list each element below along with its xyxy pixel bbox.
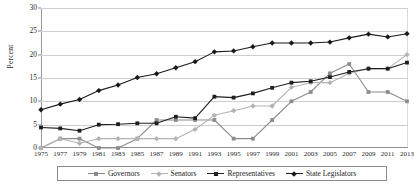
data-point: [270, 118, 274, 122]
data-point: [309, 90, 313, 94]
data-point: [232, 137, 236, 141]
data-point: [212, 118, 216, 122]
plot-area: 051015202530 197519771979198119831985198…: [41, 8, 408, 148]
data-point: [290, 81, 294, 85]
data-point: [154, 71, 159, 76]
data-point: [77, 141, 82, 146]
y-axis-title: Percent: [6, 27, 15, 87]
series-senators: [38, 52, 409, 151]
data-point: [78, 129, 82, 133]
data-point: [328, 75, 332, 79]
x-tick-label: 2001: [284, 151, 298, 158]
y-tick-label: 20: [30, 51, 38, 59]
data-point: [289, 40, 294, 45]
legend-marker-icon: [88, 170, 105, 177]
data-point: [38, 107, 43, 112]
data-point: [232, 96, 236, 100]
data-point: [212, 49, 217, 54]
data-point: [58, 101, 63, 106]
data-point: [250, 103, 255, 108]
data-point: [155, 121, 159, 125]
legend-label: State Legislators: [306, 169, 356, 178]
data-point: [173, 136, 178, 141]
legend-marker-icon: [286, 170, 303, 177]
data-point: [192, 59, 197, 64]
data-point: [96, 88, 101, 93]
data-point: [231, 108, 236, 113]
x-tick-label: 1987: [150, 151, 164, 158]
data-point: [173, 65, 178, 70]
data-point: [97, 123, 101, 127]
x-tick-label: 1985: [130, 151, 144, 158]
data-point: [231, 48, 236, 53]
data-point: [154, 136, 159, 141]
data-point: [174, 118, 178, 122]
data-point: [385, 34, 390, 39]
x-tick-label: 2005: [323, 151, 337, 158]
data-point: [174, 115, 178, 119]
y-tick-label: 10: [30, 98, 38, 106]
x-tick-label: 2011: [381, 151, 395, 158]
data-point: [290, 99, 294, 103]
legend-item-state-legislators[interactable]: State Legislators: [286, 169, 356, 178]
data-point: [367, 67, 371, 71]
y-tick-label: 30: [30, 4, 38, 12]
legend-marker-icon: [151, 170, 168, 177]
legend-item-senators[interactable]: Senators: [151, 169, 197, 178]
y-tick-label: 15: [30, 74, 38, 82]
y-tick-label: 5: [33, 121, 37, 129]
legend-label: Governors: [108, 169, 140, 178]
data-point: [347, 35, 352, 40]
data-point: [58, 127, 62, 131]
data-point: [212, 95, 216, 99]
x-tick-label: 1999: [265, 151, 279, 158]
data-point: [77, 97, 82, 102]
x-tick-label: 1989: [169, 151, 183, 158]
data-point: [96, 136, 101, 141]
data-point: [116, 146, 120, 150]
data-point: [116, 122, 120, 126]
series-representatives: [39, 61, 409, 133]
data-point: [347, 70, 351, 74]
legend-item-governors[interactable]: Governors: [88, 169, 140, 178]
x-tick-label: 1981: [92, 151, 106, 158]
data-point: [404, 31, 409, 36]
data-point: [78, 137, 82, 141]
x-tick-label: 1997: [246, 151, 260, 158]
legend-label: Senators: [171, 169, 197, 178]
data-point: [386, 67, 390, 71]
x-tick-label: 1993: [207, 151, 221, 158]
legend-label: Representatives: [227, 169, 274, 178]
x-tick-label: 1995: [227, 151, 241, 158]
data-point: [327, 80, 332, 85]
legend-item-representatives[interactable]: Representatives: [207, 169, 274, 178]
data-point: [251, 92, 255, 96]
data-point: [270, 86, 274, 90]
x-tick-label: 2007: [342, 151, 356, 158]
data-point: [366, 31, 371, 36]
data-point: [308, 40, 313, 45]
data-point: [135, 121, 139, 125]
data-point: [309, 79, 313, 83]
x-tick-label: 2003: [304, 151, 318, 158]
x-tick-label: 1979: [73, 151, 87, 158]
data-point: [405, 61, 409, 65]
data-point: [155, 118, 159, 122]
legend-marker-icon: [207, 170, 224, 177]
data-point: [97, 146, 101, 150]
x-tick-label: 2013: [400, 151, 414, 158]
data-point: [39, 126, 43, 130]
x-tick-label: 1975: [34, 151, 48, 158]
x-tick-label: 2009: [361, 151, 375, 158]
series-line: [41, 64, 407, 148]
data-point: [115, 136, 120, 141]
x-tick-label: 1991: [188, 151, 202, 158]
series-governors: [39, 62, 409, 150]
data-point: [367, 90, 371, 94]
data-point: [250, 44, 255, 49]
data-point: [328, 71, 332, 75]
data-point: [405, 99, 409, 103]
chart-legend: GovernorsSenatorsRepresentativesState Le…: [57, 166, 387, 181]
data-point: [347, 62, 351, 66]
